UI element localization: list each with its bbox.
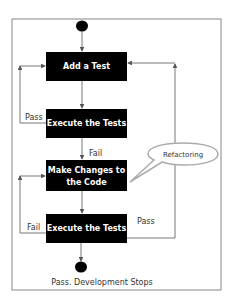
- refactoring-callout: Refactoring: [130, 143, 218, 182]
- node-make-changes: Make Changes to the Code: [46, 160, 127, 191]
- tdd-flowchart: Add a Test Execute the Tests Pass Fail M…: [0, 0, 234, 303]
- node-label-line2: the Code: [66, 178, 107, 187]
- end-node: [75, 262, 87, 273]
- edge-label-pass: Pass: [25, 113, 43, 122]
- node-add-a-test: Add a Test: [46, 52, 127, 81]
- start-node: [76, 21, 88, 32]
- node-label: Execute the Tests: [47, 224, 127, 233]
- edge-label-fail: Fail: [89, 149, 102, 158]
- node-execute-tests-1: Execute the Tests: [46, 109, 127, 138]
- edge-label-fail-bottom: Fail: [27, 223, 40, 232]
- node-label: Add a Test: [63, 62, 110, 71]
- node-label-line1: Make Changes to: [48, 166, 126, 175]
- end-caption: Pass. Development Stops: [51, 278, 153, 287]
- callout-label: Refactoring: [163, 151, 203, 159]
- node-execute-tests-2: Execute the Tests: [46, 214, 127, 243]
- edge-label-pass-right: Pass: [137, 217, 155, 226]
- node-label: Execute the Tests: [47, 119, 127, 128]
